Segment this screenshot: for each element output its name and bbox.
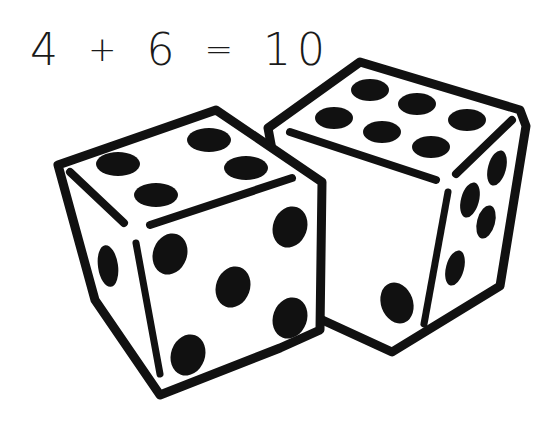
left-die (58, 110, 322, 395)
dice-illustration (0, 0, 554, 421)
